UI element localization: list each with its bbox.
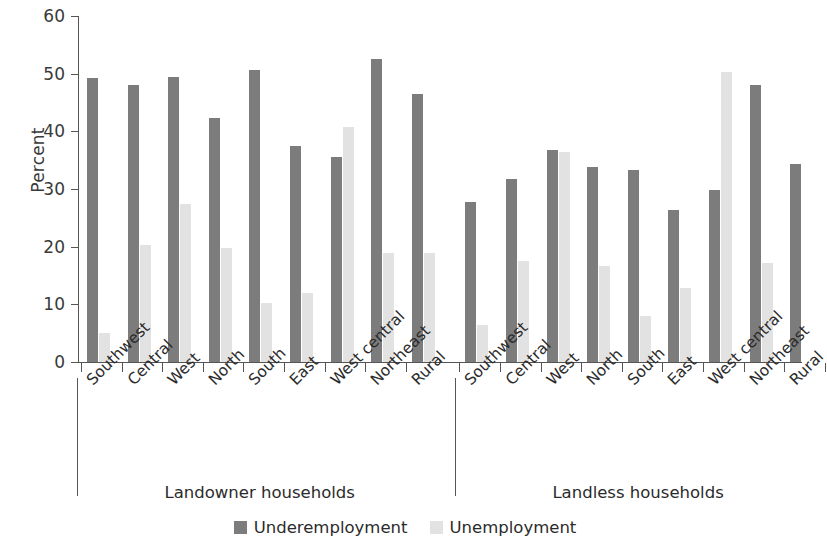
- bar-underemployment: [668, 210, 679, 362]
- group-label: Landless households: [455, 483, 820, 502]
- bar-unemployment: [302, 293, 313, 362]
- bar-unemployment: [180, 204, 191, 362]
- y-axis-ticks: 0102030405060: [0, 0, 78, 363]
- bar-underemployment: [290, 146, 301, 362]
- y-tick-mark: [71, 131, 78, 132]
- bar-underemployment: [547, 150, 558, 362]
- bar-unemployment: [559, 152, 570, 362]
- bar-unemployment: [221, 248, 232, 362]
- bar-underemployment: [371, 59, 382, 362]
- legend-label: Underemployment: [254, 518, 408, 537]
- x-tick-mark: [243, 363, 244, 372]
- bar-unemployment: [383, 253, 394, 362]
- x-tick-mark: [203, 363, 204, 372]
- bar-unemployment: [721, 72, 732, 362]
- bars-layer: [78, 16, 802, 362]
- y-tick-mark: [71, 247, 78, 248]
- y-tick-mark: [71, 304, 78, 305]
- x-tick-mark: [825, 363, 826, 372]
- y-tick-mark: [71, 74, 78, 75]
- bar-underemployment: [87, 78, 98, 362]
- legend-swatch-icon: [234, 521, 247, 534]
- x-tick-mark: [162, 363, 163, 372]
- x-tick-mark: [122, 363, 123, 372]
- bar-underemployment: [249, 70, 260, 362]
- x-tick-mark: [325, 363, 326, 372]
- bar-unemployment: [343, 127, 354, 362]
- x-tick-mark: [784, 363, 785, 372]
- y-tick-mark: [71, 362, 78, 363]
- group-separator: [455, 378, 456, 496]
- bar-underemployment: [168, 77, 179, 362]
- bar-unemployment: [140, 245, 151, 362]
- y-tick-mark: [71, 16, 78, 17]
- bar-underemployment: [209, 118, 220, 363]
- bar-underemployment: [465, 202, 476, 362]
- x-tick-mark: [406, 363, 407, 372]
- x-tick-mark: [703, 363, 704, 372]
- group-label: Landowner households: [77, 483, 442, 502]
- group-separator: [77, 378, 78, 496]
- y-tick-label: 50: [43, 64, 65, 84]
- x-tick-mark: [581, 363, 582, 372]
- bar-unemployment: [599, 266, 610, 362]
- x-tick-mark: [81, 363, 82, 372]
- x-tick-mark: [459, 363, 460, 372]
- bar-unemployment: [424, 253, 435, 362]
- y-tick-label: 20: [43, 237, 65, 257]
- legend-item: Underemployment: [234, 518, 408, 537]
- y-tick-label: 10: [43, 294, 65, 314]
- legend-swatch-icon: [430, 521, 443, 534]
- bar-unemployment: [680, 288, 691, 362]
- x-tick-mark: [662, 363, 663, 372]
- y-tick-label: 40: [43, 121, 65, 141]
- bar-underemployment: [628, 170, 639, 362]
- x-tick-mark: [744, 363, 745, 372]
- legend-item: Unemployment: [430, 518, 577, 537]
- y-tick-mark: [71, 189, 78, 190]
- y-tick-label: 0: [54, 352, 65, 372]
- bar-underemployment: [331, 157, 342, 362]
- bar-underemployment: [709, 190, 720, 362]
- y-tick-label: 30: [43, 179, 65, 199]
- y-tick-label: 60: [43, 6, 65, 26]
- chart-legend: UnderemploymentUnemployment: [0, 518, 810, 537]
- legend-label: Unemployment: [450, 518, 577, 537]
- x-tick-mark: [541, 363, 542, 372]
- x-tick-mark: [622, 363, 623, 372]
- bar-underemployment: [587, 167, 598, 362]
- x-tick-mark: [365, 363, 366, 372]
- x-tick-mark: [500, 363, 501, 372]
- bar-unemployment: [518, 261, 529, 362]
- x-tick-mark: [284, 363, 285, 372]
